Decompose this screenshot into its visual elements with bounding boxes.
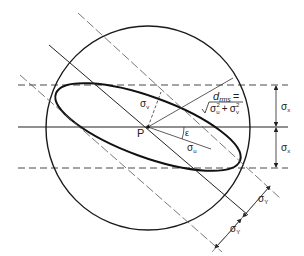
label-sigma-y-upper: σY: [258, 193, 268, 205]
dashed-diagonal-upper: [78, 13, 280, 198]
label-epsilon: ε: [185, 128, 189, 138]
point-p-marker: [146, 125, 150, 129]
label-sqrt-expression: σu2+σv2: [210, 102, 240, 115]
label-sigma-x-bottom: σx: [281, 142, 290, 154]
epsilon-arc: [182, 127, 184, 139]
label-sigma-x-top: σx: [281, 101, 290, 113]
label-sigma-v: σv: [140, 98, 149, 110]
error-ellipse-diagram: P σv ε σu drms= σu2+σv2 σx σx σY σY: [0, 0, 304, 256]
label-sigma-y-lower: σY: [230, 223, 240, 235]
label-p: P: [137, 127, 144, 139]
